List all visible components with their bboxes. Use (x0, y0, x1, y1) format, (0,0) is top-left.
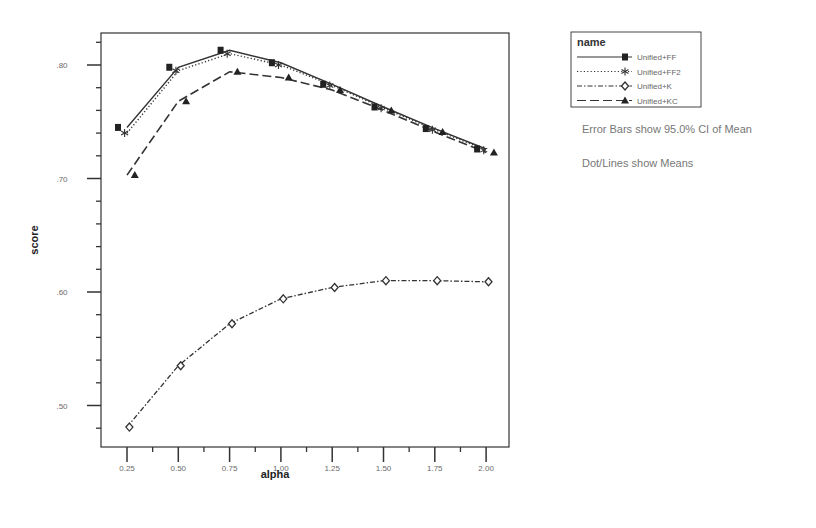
data-point-marker (166, 64, 172, 71)
series-line-unified-k (127, 281, 486, 427)
data-point-marker (382, 277, 389, 285)
data-point-marker (490, 148, 498, 155)
series-line-unified-kc (127, 72, 486, 175)
y-tick-label: .60 (56, 288, 68, 297)
x-tick-label: 0.75 (222, 464, 238, 473)
legend-title: name (577, 36, 606, 48)
data-point-marker (485, 278, 492, 286)
legend-item-label: Unified+KC (637, 97, 678, 106)
data-point-marker (131, 171, 139, 178)
data-point-marker (269, 59, 275, 66)
data-point-marker (285, 73, 293, 80)
data-point-marker (233, 68, 241, 75)
x-tick-label: 1.25 (324, 464, 340, 473)
dot-lines-note: Dot/Lines show Means (582, 157, 693, 169)
x-tick-label: 0.25 (119, 464, 135, 473)
x-tick-label: 1.50 (376, 464, 392, 473)
legend-item-label: Unified+FF2 (637, 68, 681, 77)
data-point-marker (218, 47, 224, 54)
data-point-marker (331, 283, 338, 291)
data-point-marker (439, 128, 447, 135)
data-point-marker (320, 81, 326, 88)
y-tick-label: .50 (56, 402, 68, 411)
x-tick-label: 1.75 (427, 464, 443, 473)
x-tick-label: 0.50 (171, 464, 187, 473)
legend-marker-square-icon (622, 54, 628, 61)
x-axis: 0.250.500.751.001.251.501.752.00 (119, 447, 494, 473)
y-tick-label: .80 (56, 61, 68, 70)
legend-item-label: Unified+K (637, 82, 673, 91)
error-bars-note: Error Bars show 95.0% CI of Mean (582, 123, 752, 135)
x-tick-label: 2.00 (478, 464, 494, 473)
data-point-marker (126, 423, 133, 431)
data-point-marker (387, 106, 395, 113)
y-axis: .80.70.60.50 (56, 42, 101, 428)
legend: name Unified+FFUnified+FF2Unified+KUnifi… (571, 32, 701, 107)
data-point-marker (177, 362, 184, 370)
y-axis-title: score (28, 225, 40, 254)
data-point-marker (423, 125, 429, 132)
line-chart: .80.70.60.50 0.250.500.751.001.251.501.7… (0, 0, 816, 528)
legend-item-label: Unified+FF (637, 53, 676, 62)
data-point-marker (115, 124, 121, 131)
data-point-marker (372, 103, 378, 110)
data-point-marker (474, 145, 480, 152)
data-point-marker (280, 295, 287, 303)
data-point-marker (434, 277, 441, 285)
y-tick-label: .70 (56, 175, 68, 184)
series-line-unified-ff2 (127, 54, 486, 150)
x-axis-title: alpha (261, 468, 291, 480)
